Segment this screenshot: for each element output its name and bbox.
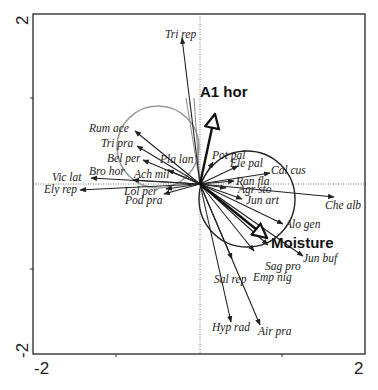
label-a1-hor: A1 hor — [200, 83, 248, 100]
biplot-chart: Tri rep Rum ace Tri pra Bel per Pla lan … — [0, 0, 378, 390]
label-cal-cus: Cal cus — [271, 164, 306, 176]
label-jun-buf: Jun buf — [303, 252, 339, 265]
y-axis-max-label: 2 — [13, 16, 32, 25]
label-emp-nig: Emp nig — [252, 271, 292, 284]
label-sal-rep: Sal rep — [214, 273, 247, 286]
x-axis-min-label: -2 — [34, 359, 49, 378]
label-bro-hor: Bro hor — [89, 165, 125, 177]
x-axis-max-label: 2 — [354, 359, 363, 378]
label-alo-gen: Alo gen — [284, 218, 321, 231]
label-che-alb: Che alb — [325, 199, 361, 211]
label-pla-lan: Pla lan — [159, 153, 194, 165]
y-axis-min-label: -2 — [13, 343, 32, 358]
label-ach-mil: Ach mil — [133, 168, 169, 180]
species-arrows — [80, 38, 334, 325]
label-tri-rep: Tri rep — [165, 28, 196, 41]
label-hyp-rad: Hyp rad — [211, 321, 250, 334]
label-pod-pra: Pod pra — [124, 194, 163, 207]
label-air-pra: Air pra — [257, 325, 292, 338]
label-tri-pra: Tri pra — [101, 137, 134, 150]
label-bel-per: Bel per — [107, 152, 141, 165]
label-ely-rep: Ely rep — [43, 183, 77, 196]
label-jun-art: Jun art — [246, 194, 280, 206]
label-ele-pal: Ele pal — [229, 157, 263, 170]
label-vic-lat: Vic lat — [52, 171, 82, 183]
label-moisture: Moisture — [271, 234, 334, 251]
label-rum-ace: Rum ace — [88, 122, 129, 134]
